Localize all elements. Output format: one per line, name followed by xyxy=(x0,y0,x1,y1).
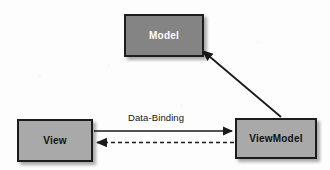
edge-viewmodel-to-model xyxy=(203,51,281,117)
node-model-label: Model xyxy=(149,31,179,41)
node-model[interactable]: Model xyxy=(124,14,204,57)
node-view[interactable]: View xyxy=(17,119,93,162)
diagram-canvas: Model View ViewModel Data-Binding xyxy=(0,0,330,170)
edge-label-data-binding: Data-Binding xyxy=(128,112,184,123)
node-viewmodel-label: ViewModel xyxy=(249,134,302,144)
node-viewmodel[interactable]: ViewModel xyxy=(235,118,317,159)
node-view-label: View xyxy=(43,136,66,146)
